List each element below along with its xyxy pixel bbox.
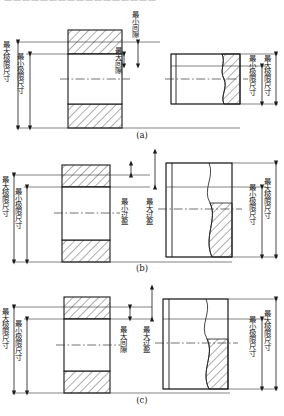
label-min-clearance-a: 最小间隙 bbox=[131, 10, 138, 37]
label-hole-max-c: 最大极限尺寸 bbox=[1, 307, 8, 347]
label-hole-max-a: 最大极限尺寸 bbox=[2, 40, 9, 80]
caption-a: (a) bbox=[0, 130, 284, 140]
panel-c: 最大极限尺寸 最小极限尺寸 最大间隙 最大过盈 最小极限尺寸 最大极限尺寸 (c… bbox=[0, 285, 284, 416]
label-hole-max-b: 最大极限尺寸 bbox=[1, 175, 8, 215]
panel-a-drawing bbox=[0, 8, 284, 145]
panel-b: 最大极限尺寸 最小极限尺寸 最小过盈 最大过盈 最小极限尺寸 最大极限尺寸 (b… bbox=[0, 145, 284, 285]
label-hole-min-c: 最小极限尺寸 bbox=[14, 319, 21, 359]
label-shaft-max-b: 最大极限尺寸 bbox=[263, 177, 270, 217]
label-min-interference-b: 最小过盈 bbox=[120, 197, 127, 224]
cutoff-text: 一一一一一一一一一一一一一一一一一 bbox=[0, 0, 284, 6]
caption-b: (b) bbox=[0, 263, 284, 273]
label-shaft-max-a: 最大极限尺寸 bbox=[263, 54, 270, 94]
label-max-interference-b: 最大过盈 bbox=[145, 197, 152, 224]
shaft-section-c bbox=[163, 299, 228, 389]
label-hole-min-a: 最小极限尺寸 bbox=[16, 52, 23, 92]
label-hole-min-b: 最小极限尺寸 bbox=[14, 187, 21, 227]
cutoff-text-strip: 一一一一一一一一一一一一一一一一一 bbox=[0, 0, 284, 8]
label-max-interference-c: 最大过盈 bbox=[142, 325, 149, 352]
label-shaft-max-c: 最大极限尺寸 bbox=[263, 309, 270, 349]
shaft-section-b bbox=[166, 163, 232, 257]
panel-a: 最大极限尺寸 最小极限尺寸 最小间隙 最大间隙 最小极限尺寸 最大极限尺寸 (a… bbox=[0, 8, 284, 145]
engineering-drawing-sheet: 一一一一一一一一一一一一一一一一一 bbox=[0, 0, 284, 416]
label-shaft-min-c: 最小极限尺寸 bbox=[248, 315, 255, 355]
label-max-clearance-a: 最大间隙 bbox=[114, 46, 121, 73]
hole-section-b bbox=[62, 165, 110, 262]
label-shaft-min-b: 最小极限尺寸 bbox=[248, 183, 255, 223]
label-max-clearance-c: 最大间隙 bbox=[119, 325, 126, 352]
caption-c: (c) bbox=[0, 395, 284, 405]
label-shaft-min-a: 最小极限尺寸 bbox=[248, 54, 255, 94]
